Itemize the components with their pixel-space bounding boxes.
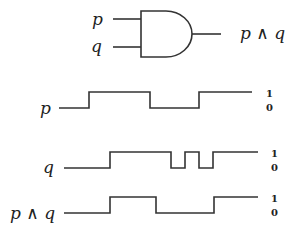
waveform-p: p 1 0 — [40, 88, 273, 118]
waveform-p-high-level: 1 — [266, 88, 273, 99]
waveform-p-label: p — [40, 98, 51, 118]
waveform-p-and-q-high-level: 1 — [271, 193, 278, 204]
gate-input-q-label: q — [91, 36, 102, 56]
waveform-q-trace — [64, 152, 258, 168]
waveform-q-label: q — [43, 157, 54, 177]
waveform-p-and-q: p ∧ q 1 0 — [10, 193, 278, 223]
waveform-p-trace — [59, 92, 252, 108]
waveform-q-high-level: 1 — [271, 148, 278, 159]
gate-input-p-label: p — [92, 9, 103, 29]
gate-output-label: p ∧ q — [240, 23, 285, 43]
waveform-p-low-level: 0 — [266, 102, 273, 113]
waveform-q-low-level: 0 — [271, 162, 278, 173]
and-gate-symbol — [141, 11, 192, 57]
waveform-p-and-q-trace — [64, 197, 258, 213]
and-gate-timing-diagram: p q p ∧ q p 1 0 q 1 0 p ∧ q 1 0 — [0, 0, 289, 240]
waveform-p-and-q-low-level: 0 — [271, 207, 278, 218]
waveform-p-and-q-label: p ∧ q — [10, 203, 55, 223]
and-gate: p q p ∧ q — [91, 9, 285, 57]
waveform-q: q 1 0 — [43, 148, 278, 177]
